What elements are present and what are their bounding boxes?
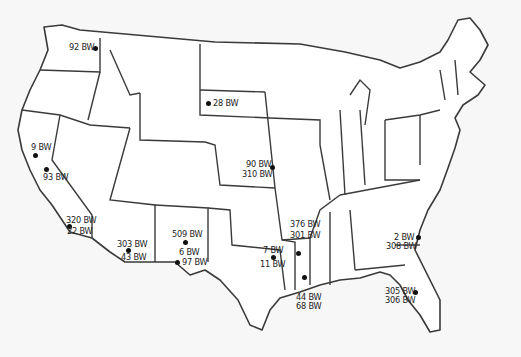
marker-dot-la-south: [302, 275, 307, 280]
marker-label-la-north-2: 301 BW: [290, 231, 320, 240]
marker-label-az-1: 303 BW: [117, 240, 147, 249]
marker-dot-tx-west: [175, 260, 180, 265]
marker-label-ga-sc-2: 308 BW: [386, 242, 416, 251]
marker-label-ks-mo-2: 310 BW: [242, 170, 272, 179]
marker-label-nm-2: 6 BW: [179, 248, 199, 257]
marker-label-ca-south-1: 320 BW: [66, 216, 96, 225]
us-map: 92 BW 28 BW 9 BW 93 BW 320 BW 22 BW 303 …: [0, 0, 521, 357]
marker-dot-sd: [206, 101, 211, 106]
marker-label-nm-1: 509 BW: [172, 230, 202, 239]
marker-label-az-2: 43 BW: [121, 253, 146, 262]
marker-label-fl-2: 306 BW: [385, 296, 415, 305]
marker-label-tx-east-2: 11 BW: [260, 260, 285, 269]
marker-label-sd-1: 28 BW: [213, 99, 238, 108]
marker-dot-la-north: [296, 251, 301, 256]
marker-label-la-south-2: 68 BW: [296, 302, 321, 311]
marker-label-tx-west-1: 97 BW: [182, 258, 207, 267]
marker-label-ca-central-1: 93 BW: [43, 173, 68, 182]
marker-label-tx-east-1: 7 BW: [263, 246, 283, 255]
marker-label-ks-mo-1: 90 BW: [246, 160, 271, 169]
marker-label-wa-1: 92 BW: [69, 43, 94, 52]
marker-label-ca-south-2: 22 BW: [67, 227, 92, 236]
marker-label-la-north-1: 376 BW: [290, 220, 320, 229]
marker-dot-ca-north: [33, 153, 38, 158]
marker-label-ca-north-1: 9 BW: [31, 143, 51, 152]
marker-dot-nm: [183, 240, 188, 245]
marker-dot-ga-sc: [416, 235, 421, 240]
